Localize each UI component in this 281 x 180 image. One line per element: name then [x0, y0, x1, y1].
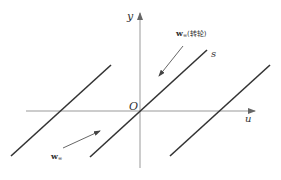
w-infinity-label: w∞ — [50, 151, 62, 161]
middle-line-s — [90, 50, 207, 157]
s-line-label: s — [211, 48, 216, 59]
w-infinity-runner-arrow — [159, 46, 183, 76]
w-infinity-arrow — [63, 131, 100, 148]
origin-label: O — [129, 100, 138, 113]
u-axis-label: u — [245, 113, 251, 124]
w-infinity-runner-label: w∞(转轮) — [175, 28, 207, 38]
diagram-canvas: y u O s w∞(转轮) w∞ — [0, 0, 281, 180]
y-axis-label: y — [126, 10, 134, 23]
